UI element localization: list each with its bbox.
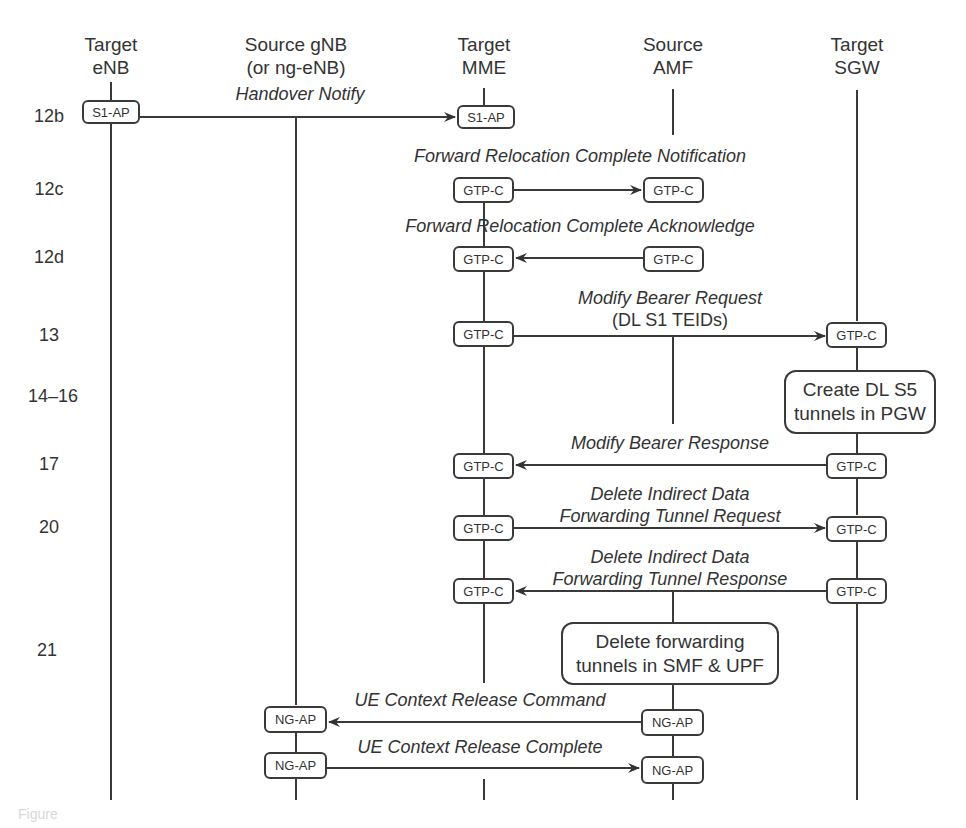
protocol-box-gtpc: GTP-C [453, 246, 514, 272]
node-title-line2: AMF [623, 56, 723, 79]
action-text-line2: tunnels in SMF & UPF [576, 654, 764, 678]
node-target-sgw: Target SGW [807, 33, 907, 79]
protocol-box-gtpc: GTP-C [826, 578, 887, 604]
protocol-box-gtpc: GTP-C [453, 515, 514, 541]
node-title-line2: (or ng-eNB) [216, 56, 376, 79]
protocol-box-gtpc: GTP-C [643, 246, 704, 272]
message-label-handover-notify: Handover Notify [160, 83, 440, 105]
protocol-box-ngap: NG-AP [264, 706, 327, 733]
node-target-mme: Target MME [434, 33, 534, 79]
message-label-modify-bearer-response: Modify Bearer Response [520, 432, 820, 454]
step-label: 17 [14, 454, 84, 475]
protocol-box-gtpc: GTP-C [826, 453, 887, 479]
node-source-amf: Source AMF [623, 33, 723, 79]
protocol-box-ngap: NG-AP [264, 752, 327, 779]
message-label-delete-indirect-response: Delete Indirect Data [520, 546, 820, 568]
message-label-ue-context-release-command: UE Context Release Command [330, 689, 630, 711]
protocol-box-ngap: NG-AP [641, 709, 704, 736]
step-label: 12c [14, 179, 84, 200]
node-title-line2: eNB [61, 56, 161, 79]
step-label: 14–16 [18, 386, 88, 407]
protocol-box-gtpc: GTP-C [453, 578, 514, 604]
action-text-line1: Delete forwarding [576, 630, 764, 654]
node-title-line1: Target [434, 33, 534, 56]
step-label: 12b [14, 106, 84, 127]
message-label-delete-indirect-request-line2: Forwarding Tunnel Request [520, 505, 820, 527]
message-label-fwd-reloc-notification: Forward Relocation Complete Notification [360, 145, 800, 167]
protocol-box-gtpc: GTP-C [453, 453, 514, 479]
protocol-box-gtpc: GTP-C [826, 322, 887, 348]
message-label-fwd-reloc-ack: Forward Relocation Complete Acknowledge [355, 215, 805, 237]
node-target-enb: Target eNB [61, 33, 161, 79]
node-title-line1: Target [61, 33, 161, 56]
protocol-box-gtpc: GTP-C [453, 321, 514, 347]
node-title-line1: Source [623, 33, 723, 56]
protocol-box-s1ap: S1-AP [82, 100, 140, 124]
step-label: 20 [14, 517, 84, 538]
node-title-line1: Source gNB [216, 33, 376, 56]
node-source-gnb: Source gNB (or ng-eNB) [216, 33, 376, 79]
message-label-delete-indirect-request: Delete Indirect Data [520, 483, 820, 505]
protocol-box-ngap: NG-AP [641, 756, 704, 784]
action-create-dl-s5-tunnels: Create DL S5tunnels in PGW [784, 370, 936, 434]
step-label: 12d [14, 247, 84, 268]
step-label: 21 [12, 640, 82, 661]
protocol-box-s1ap: S1-AP [457, 105, 515, 129]
action-text-line2: tunnels in PGW [794, 402, 926, 426]
message-label-delete-indirect-response-line2: Forwarding Tunnel Response [520, 568, 820, 590]
node-title-line1: Target [807, 33, 907, 56]
action-delete-forwarding-tunnels: Delete forwardingtunnels in SMF & UPF [561, 622, 779, 685]
message-label-ue-context-release-complete: UE Context Release Complete [330, 736, 630, 758]
action-text-line1: Create DL S5 [794, 378, 926, 402]
message-sublabel-dl-s1-teids: (DL S1 TEIDs) [520, 309, 820, 331]
step-label: 13 [14, 325, 84, 346]
message-label-modify-bearer-request: Modify Bearer Request [520, 287, 820, 309]
protocol-box-gtpc: GTP-C [453, 177, 514, 203]
protocol-box-gtpc: GTP-C [643, 177, 704, 203]
figure-caption: Figure [18, 806, 58, 822]
node-title-line2: MME [434, 56, 534, 79]
protocol-box-gtpc: GTP-C [826, 516, 887, 542]
node-title-line2: SGW [807, 56, 907, 79]
